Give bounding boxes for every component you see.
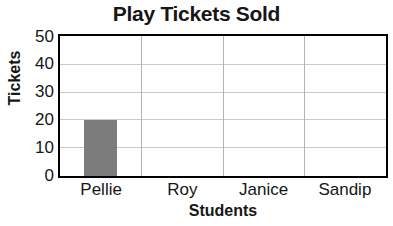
y-axis-tick-labels: 01020304050: [14, 34, 54, 178]
y-axis-tick-label: 20: [14, 111, 54, 128]
y-axis-tick-label: 30: [14, 83, 54, 100]
y-axis-tick-label: 40: [14, 55, 54, 72]
bar-chart: Play Tickets Sold Tickets 01020304050 Pe…: [0, 0, 393, 226]
y-axis-tick-label: 0: [14, 167, 54, 184]
bars-layer: [60, 36, 386, 176]
x-axis-tick-label: Pellie: [61, 180, 142, 200]
x-axis-tick-label: Sandip: [304, 180, 385, 200]
bar-pellie: [84, 120, 117, 176]
x-axis-tick-label: Roy: [142, 180, 223, 200]
chart-title: Play Tickets Sold: [0, 1, 393, 27]
y-axis-tick-label: 10: [14, 139, 54, 156]
x-axis-tick-label: Janice: [223, 180, 304, 200]
y-axis-tick-label: 50: [14, 28, 54, 45]
plot-area: [58, 34, 388, 178]
x-axis-tick-labels: PellieRoyJaniceSandip: [58, 180, 388, 202]
x-axis-title: Students: [58, 201, 388, 221]
